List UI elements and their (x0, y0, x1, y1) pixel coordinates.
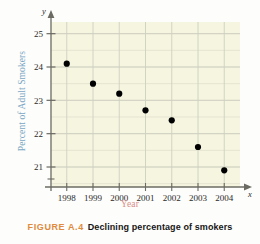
chart-plot-area: 25242322211998199920002001200220032004yx… (0, 0, 260, 216)
figure-caption-text: Declining percentage of smokers (88, 222, 233, 232)
data-point (169, 117, 175, 123)
y-tick-label: 23 (34, 96, 44, 106)
data-point (64, 61, 70, 67)
y-axis-arrow (48, 10, 55, 18)
data-point (195, 144, 201, 150)
data-point (116, 91, 122, 97)
data-point (221, 167, 227, 173)
x-axis-title: Year (0, 199, 260, 209)
x-axis-symbol: x (247, 189, 252, 199)
y-tick-label: 21 (34, 162, 43, 172)
scatter-chart: 25242322211998199920002001200220032004yx (0, 0, 260, 216)
y-tick-label: 22 (34, 129, 43, 139)
figure-container: 25242322211998199920002001200220032004yx… (0, 0, 260, 244)
y-tick-label: 25 (34, 29, 44, 39)
data-point (90, 81, 96, 87)
data-point (142, 107, 148, 113)
figure-number: FIGURE A.4 (28, 222, 84, 232)
figure-caption: FIGURE A.4Declining percentage of smoker… (0, 222, 260, 232)
y-tick-label: 24 (34, 62, 44, 72)
y-axis-symbol: y (41, 6, 46, 16)
